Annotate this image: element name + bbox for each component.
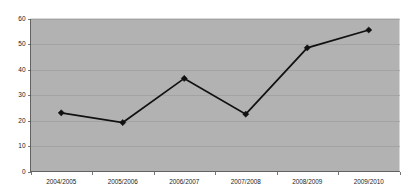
chart-canvas: 0102030405060 2004/20052005/20062006/200… (0, 0, 412, 194)
x-tick-label: 2007/2008 (231, 178, 262, 185)
y-tick-label: 60 (18, 15, 26, 22)
x-tick-label: 2009/2010 (354, 178, 385, 185)
y-tick-label: 50 (18, 40, 26, 47)
x-tick-label: 2008/2009 (292, 178, 323, 185)
x-tick-label: 2005/2006 (108, 178, 139, 185)
y-tick-label: 30 (18, 91, 26, 98)
x-tick-label: 2004/2005 (46, 178, 77, 185)
line-chart-figure: 0102030405060 2004/20052005/20062006/200… (0, 0, 412, 194)
y-tick-label: 40 (18, 66, 26, 73)
x-tick-label: 2006/2007 (169, 178, 200, 185)
y-tick-label: 0 (22, 168, 26, 175)
y-tick-label: 10 (18, 142, 26, 149)
plot-area-background (31, 19, 400, 172)
y-tick-label: 20 (18, 117, 26, 124)
